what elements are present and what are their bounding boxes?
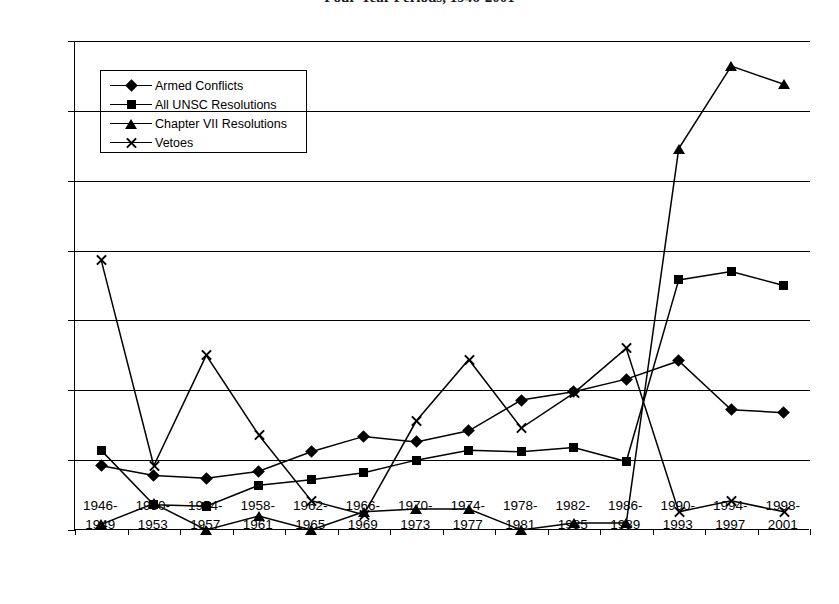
gridline xyxy=(75,111,810,112)
gridline xyxy=(75,460,810,461)
triangle-marker xyxy=(778,79,790,89)
y-axis-tick-mark xyxy=(68,111,75,112)
x-marker xyxy=(620,342,632,354)
square-marker xyxy=(517,447,526,456)
triangle-marker xyxy=(725,61,737,71)
y-axis-tick-mark xyxy=(68,41,75,42)
square-marker xyxy=(359,468,368,477)
y-axis-tick-mark xyxy=(68,390,75,391)
square-marker xyxy=(569,443,578,452)
square-marker xyxy=(622,457,631,466)
y-axis-tick-mark xyxy=(68,251,75,252)
x-marker xyxy=(148,460,160,472)
y-axis-tick-mark xyxy=(68,181,75,182)
x-marker xyxy=(95,254,107,266)
series-lines xyxy=(75,41,810,530)
x-marker xyxy=(200,349,212,361)
square-marker xyxy=(727,267,736,276)
plot-area xyxy=(74,41,809,530)
chart-container: Four-Year Periods, 1946-2001 Armed Confl… xyxy=(0,0,839,604)
square-marker xyxy=(674,275,683,284)
square-marker xyxy=(779,281,788,290)
triangle-marker xyxy=(673,144,685,154)
x-axis-tick-label-line: 1998- xyxy=(740,496,826,515)
x-marker xyxy=(515,422,527,434)
x-marker xyxy=(410,415,422,427)
gridline xyxy=(75,41,810,42)
square-marker xyxy=(254,481,263,490)
gridline xyxy=(75,390,810,391)
gridline xyxy=(75,320,810,321)
y-axis-tick-mark xyxy=(68,460,75,461)
square-marker xyxy=(464,446,473,455)
x-axis-tick-label-line: 2001 xyxy=(740,515,826,534)
square-marker xyxy=(412,456,421,465)
x-marker xyxy=(253,429,265,441)
y-axis-tick-mark xyxy=(68,320,75,321)
square-marker xyxy=(307,475,316,484)
x-marker xyxy=(463,354,475,366)
chart-title: Four-Year Periods, 1946-2001 xyxy=(0,0,839,6)
series-line-1 xyxy=(101,272,784,507)
square-marker xyxy=(97,446,106,455)
x-axis-tick-label: 1998-2001 xyxy=(740,496,826,534)
x-marker xyxy=(568,387,580,399)
gridline xyxy=(75,181,810,182)
gridline xyxy=(75,251,810,252)
